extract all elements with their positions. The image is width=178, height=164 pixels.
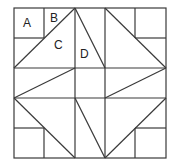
label-c: C [54,38,63,52]
quilt-block-diagram: A B C D [0,0,178,164]
diagonal-middle-left [14,68,75,98]
diagonal-bottom-middle [75,98,105,158]
label-b: B [50,11,58,25]
outer-border [14,8,166,158]
label-d: D [80,47,89,61]
label-a: A [23,16,31,30]
diagonal-middle-right [105,68,166,98]
